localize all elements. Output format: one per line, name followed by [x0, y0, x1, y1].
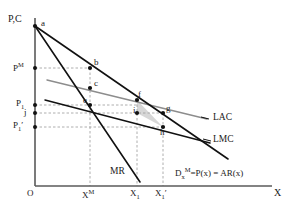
point-label-e: e: [83, 96, 87, 105]
point-e: [88, 103, 92, 107]
point-c: [88, 86, 92, 90]
demand-d-sub: x: [182, 173, 185, 180]
x-axis-label: X: [274, 188, 281, 198]
demand-ar-curve: [35, 26, 228, 159]
tick-dot-p1: [33, 103, 37, 107]
x-tick-x1: X1: [130, 189, 140, 200]
point-label-a: a: [41, 19, 45, 28]
x-tick-x1-sub: 1: [137, 193, 140, 200]
x-tick-x1prime-mark: ′: [165, 188, 167, 198]
welfare-loss-triangle: [137, 100, 163, 127]
point-label-i: i: [133, 106, 136, 115]
point-label-h: h: [160, 128, 165, 137]
point-label-c: c: [94, 79, 98, 88]
point-label-f: f: [138, 90, 141, 99]
mr-curve: [35, 26, 140, 182]
x-tick-x1prime: X1′: [155, 189, 167, 200]
y-tick-p1prime-mark: ′: [21, 120, 23, 130]
point-label-g: g: [166, 104, 171, 113]
tick-dot-pm: [33, 66, 37, 70]
demand-rest: =P(x) = AR(x): [191, 168, 244, 178]
mr-label: MR: [110, 167, 125, 177]
lac-label: LAC: [213, 113, 232, 123]
x-tick-xm-sup: M: [89, 188, 95, 195]
point-g: [161, 111, 165, 115]
point-a: [33, 24, 37, 28]
tick-dot-p1prime: [33, 125, 37, 129]
lmc-label: LMC: [213, 135, 234, 145]
lmc-leader: [203, 139, 211, 141]
tick-dot-j: [33, 111, 37, 115]
y-tick-pm-sup: M: [18, 61, 24, 68]
y-tick-j: j: [24, 108, 27, 117]
guide-lines: [35, 68, 163, 186]
demand-equation-label: DxM=P(x) = AR(x): [175, 167, 243, 180]
origin-label: O: [27, 189, 34, 198]
lmc-curve: [45, 100, 210, 143]
y-axis-label: P,C: [8, 14, 22, 24]
diagram-canvas: [0, 0, 287, 215]
economics-diagram: P,C X O PM P1 j P1′ XM X1 X1′ a b c e f …: [0, 0, 287, 215]
axes: [35, 18, 272, 186]
y-tick-p1prime: P1′: [13, 121, 23, 132]
point-label-b: b: [94, 58, 99, 67]
curve-label-leaders: [201, 117, 211, 141]
y-tick-pm: PM: [13, 62, 24, 73]
x-tick-xm: XM: [82, 189, 94, 200]
point-b: [88, 66, 92, 70]
